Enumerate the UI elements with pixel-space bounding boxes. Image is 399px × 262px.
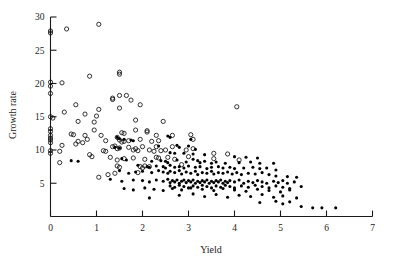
data-point-filled	[178, 184, 181, 187]
data-point-open	[106, 173, 110, 177]
data-point-filled	[120, 157, 123, 160]
data-point-filled	[155, 164, 158, 167]
data-point-filled	[123, 187, 126, 190]
data-point-open	[138, 103, 142, 107]
data-points-group	[48, 22, 337, 209]
data-point-open	[117, 93, 121, 97]
x-tick-label: 4	[232, 223, 237, 233]
data-point-filled	[173, 166, 176, 169]
data-point-filled	[288, 188, 291, 191]
data-point-filled	[159, 159, 162, 162]
data-point-open	[74, 103, 78, 107]
data-point-filled	[192, 158, 195, 161]
data-point-filled	[125, 158, 128, 161]
x-tick-label: 3	[186, 223, 191, 233]
data-point-open	[157, 139, 161, 143]
data-point-filled	[205, 167, 208, 170]
data-point-filled	[320, 206, 323, 209]
data-point-filled	[192, 192, 195, 195]
data-point-open	[92, 120, 96, 124]
data-point-filled	[192, 178, 195, 181]
data-point-filled	[267, 173, 270, 176]
data-point-filled	[226, 170, 229, 173]
data-point-open	[134, 128, 138, 132]
data-point-filled	[175, 158, 178, 161]
data-point-filled	[171, 187, 174, 190]
data-point-filled	[194, 148, 197, 151]
data-point-filled	[194, 170, 197, 173]
x-tick-label: 0	[48, 223, 53, 233]
data-point-filled	[118, 146, 121, 149]
data-point-open	[88, 74, 92, 78]
data-point-filled	[169, 164, 172, 167]
x-tick-label: 1	[94, 223, 99, 233]
data-point-filled	[274, 184, 277, 187]
data-point-filled	[162, 170, 165, 173]
data-point-filled	[180, 188, 183, 191]
data-point-open	[163, 148, 167, 152]
data-point-filled	[196, 186, 199, 189]
data-point-filled	[178, 169, 181, 172]
data-point-filled	[251, 166, 254, 169]
data-point-filled	[242, 166, 245, 169]
data-point-filled	[265, 166, 268, 169]
data-point-filled	[254, 184, 257, 187]
data-point-open	[184, 148, 188, 152]
data-point-filled	[228, 166, 231, 169]
data-point-open	[115, 158, 119, 162]
data-point-open	[127, 145, 131, 149]
data-point-filled	[113, 146, 116, 149]
data-point-filled	[173, 171, 176, 174]
data-point-filled	[150, 160, 153, 163]
data-point-filled	[300, 205, 303, 208]
data-point-filled	[217, 171, 220, 174]
data-point-filled	[166, 178, 169, 181]
data-point-filled	[256, 179, 259, 182]
data-point-open	[60, 81, 64, 85]
data-point-filled	[258, 162, 261, 165]
data-point-filled	[141, 170, 144, 173]
data-point-filled	[198, 165, 201, 168]
data-point-open	[76, 139, 80, 143]
data-point-filled	[274, 200, 277, 203]
data-point-open	[143, 157, 147, 161]
data-point-filled	[233, 180, 236, 183]
data-point-open	[166, 155, 170, 159]
data-point-open	[189, 133, 193, 137]
data-point-open	[159, 149, 163, 153]
y-tick-label: 5	[40, 179, 45, 189]
data-point-filled	[201, 171, 204, 174]
data-point-filled	[178, 146, 181, 149]
data-point-open	[85, 137, 89, 141]
data-point-filled	[244, 190, 247, 193]
data-point-filled	[272, 196, 275, 199]
data-point-filled	[169, 184, 172, 187]
data-point-filled	[194, 166, 197, 169]
data-point-filled	[169, 151, 172, 154]
data-point-filled	[233, 155, 236, 158]
x-axis-title: Yield	[200, 244, 222, 255]
data-point-open	[152, 149, 156, 153]
data-point-filled	[334, 206, 337, 209]
tick-labels-group: 0123456751015202530	[35, 12, 375, 232]
data-point-filled	[210, 170, 213, 173]
data-point-filled	[164, 166, 167, 169]
data-point-filled	[187, 164, 190, 167]
data-point-filled	[219, 178, 222, 181]
data-point-filled	[261, 185, 264, 188]
data-point-filled	[187, 144, 190, 147]
data-point-filled	[261, 180, 264, 183]
data-point-filled	[201, 184, 204, 187]
data-point-filled	[152, 188, 155, 191]
data-point-filled	[242, 182, 245, 185]
data-point-filled	[256, 156, 259, 159]
data-point-filled	[132, 139, 135, 142]
data-point-filled	[267, 186, 270, 189]
data-point-filled	[203, 195, 206, 198]
data-point-filled	[127, 172, 130, 175]
data-point-filled	[143, 186, 146, 189]
data-point-filled	[286, 175, 289, 178]
data-point-filled	[274, 168, 277, 171]
data-point-open	[170, 145, 174, 149]
data-point-filled	[274, 174, 277, 177]
